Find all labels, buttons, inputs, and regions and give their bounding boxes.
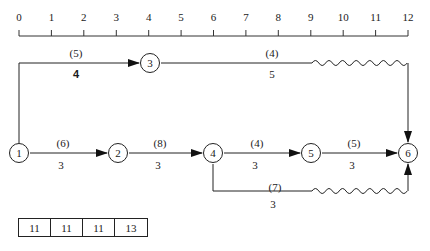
tick-label: 9 [308, 11, 314, 23]
tick-label: 7 [243, 11, 249, 23]
tick-label: 6 [211, 11, 217, 23]
duration-label-3-6: 5 [269, 68, 275, 80]
resource-label-2-4: (8) [154, 137, 167, 149]
tick-label: 10 [338, 11, 349, 23]
duration-label-1-3: 4 [73, 68, 79, 80]
arrow-4-6-solid [213, 164, 312, 191]
tick-label: 12 [403, 11, 414, 23]
resource-table: 11 11 11 13 [18, 218, 148, 237]
duration-label-5-6: 3 [349, 159, 355, 171]
timescale-ruler [19, 30, 408, 36]
node-5: 5 [301, 143, 321, 163]
resource-label-3-6: (4) [266, 47, 279, 59]
resource-cell: 11 [83, 219, 115, 236]
tick-label: 11 [370, 11, 381, 23]
resource-label-1-3: (5) [70, 47, 83, 59]
resource-label-4-5: (4) [251, 137, 264, 149]
tick-label: 1 [49, 11, 55, 23]
tick-label: 5 [178, 11, 184, 23]
resource-label-4-6: (7) [269, 181, 282, 193]
tick-label: 2 [81, 11, 87, 23]
node-4: 4 [203, 143, 223, 163]
float-wave-4-6 [312, 189, 407, 194]
duration-label-2-4: 3 [155, 159, 161, 171]
resource-label-1-2: (6) [57, 137, 70, 149]
node-2: 2 [108, 143, 128, 163]
duration-label-1-2: 3 [58, 159, 64, 171]
tick-label: 4 [146, 11, 152, 23]
resource-label-5-6: (5) [348, 137, 361, 149]
tick-label: 3 [114, 11, 120, 23]
resource-cell: 13 [115, 219, 147, 236]
node-1: 1 [9, 143, 29, 163]
tick-label: 8 [276, 11, 282, 23]
duration-label-4-5: 3 [252, 159, 258, 171]
network-diagram [0, 0, 430, 251]
resource-cell: 11 [51, 219, 83, 236]
node-6: 6 [398, 143, 418, 163]
tick-label: 0 [16, 11, 22, 23]
resource-cell: 11 [19, 219, 51, 236]
node-3: 3 [140, 53, 160, 73]
float-wave-3-6 [312, 61, 407, 66]
duration-label-4-6: 3 [270, 198, 276, 210]
